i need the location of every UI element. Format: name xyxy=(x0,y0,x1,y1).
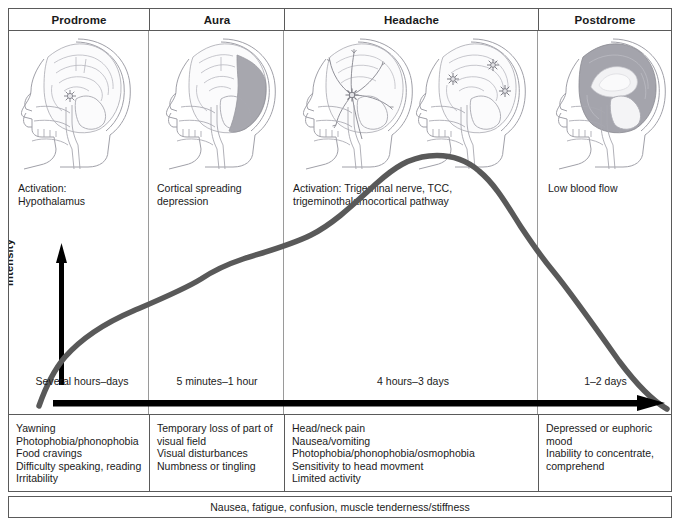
symptom-item: Inability to concentrate, xyxy=(546,447,665,460)
symptom-item: Depressed or euphoric xyxy=(546,422,665,435)
symptom-item: visual field xyxy=(157,435,278,448)
phase-header-label: Prodrome xyxy=(51,14,106,26)
common-symptoms-footer: Nausea, fatigue, confusion, muscle tende… xyxy=(8,496,672,518)
symptom-item: Yawning xyxy=(16,422,143,435)
symptom-item: Nausea/vomiting xyxy=(292,435,532,448)
starburst-marker xyxy=(447,73,459,85)
phase-header-headache: Headache xyxy=(284,9,538,30)
symptom-item: Head/neck pain xyxy=(292,422,532,435)
symptom-item: Irritability xyxy=(16,472,143,485)
symptom-item: Visual disturbances xyxy=(157,447,278,460)
footer-label: Nausea, fatigue, confusion, muscle tende… xyxy=(210,501,470,513)
symptoms-headache: Head/neck pain Nausea/vomiting Photophob… xyxy=(284,415,538,491)
starburst-marker xyxy=(346,89,359,102)
brain-illustration-row xyxy=(9,31,671,171)
head-brain-low-blood-flow-icon xyxy=(549,33,672,171)
phase-header-label: Aura xyxy=(204,14,231,26)
phase-header-label: Postdrome xyxy=(575,14,636,26)
symptoms-prodrome: Yawning Photophobia/phonophobia Food cra… xyxy=(9,415,149,491)
symptom-item: Numbness or tingling xyxy=(157,460,278,473)
phase-header-aura: Aura xyxy=(149,9,284,30)
activation-caption-headache: Activation: Trigeminal nerve, TCC, trige… xyxy=(293,182,543,208)
symptom-item: comprehend xyxy=(546,460,665,473)
phase-header-prodrome: Prodrome xyxy=(9,9,149,30)
starburst-marker xyxy=(499,85,511,97)
phase-header-row: Prodrome Aura Headache Postdrome xyxy=(8,8,672,31)
phase-header-postdrome: Postdrome xyxy=(538,9,671,30)
symptom-item: Limited activity xyxy=(292,472,532,485)
symptom-item: mood xyxy=(546,435,665,448)
symptoms-postdrome: Depressed or euphoric mood Inability to … xyxy=(538,415,671,491)
starburst-marker xyxy=(64,90,76,102)
starburst-marker xyxy=(487,59,499,71)
symptoms-aura: Temporary loss of part of visual field V… xyxy=(149,415,284,491)
symptom-item: Food cravings xyxy=(16,447,143,460)
activation-caption-prodrome: Activation: Hypothalamus xyxy=(18,182,146,208)
duration-postdrome: 1–2 days xyxy=(548,375,663,387)
intensity-axis-arrow xyxy=(56,243,67,385)
symptoms-row: Yawning Photophobia/phonophobia Food cra… xyxy=(8,414,672,492)
head-brain-hypothalamus-activation-icon xyxy=(14,33,146,171)
duration-aura: 5 minutes–1 hour xyxy=(157,375,277,387)
symptom-item: Sensitivity to head movment xyxy=(292,460,532,473)
migraine-phases-figure: Prodrome Aura Headache Postdrome xyxy=(8,8,672,522)
duration-prodrome: Several hours–days xyxy=(18,375,146,387)
figure-body: Activation: Hypothalamus Cortical spread… xyxy=(8,31,672,415)
activation-caption-aura: Cortical spreading depression xyxy=(157,182,285,208)
head-brain-cortical-spreading-depression-icon xyxy=(159,33,291,171)
head-brain-cortical-starbursts-icon xyxy=(409,33,541,171)
symptom-item: Difficulty speaking, reading xyxy=(16,460,143,473)
time-axis-arrow xyxy=(53,395,665,411)
symptom-item: Temporary loss of part of xyxy=(157,422,278,435)
symptom-item: Photophobia/phonophobia/osmophobia xyxy=(292,447,532,460)
duration-headache: 4 hours–3 days xyxy=(293,375,533,387)
symptom-item: Photophobia/phonophobia xyxy=(16,435,143,448)
intensity-axis-label: Intensity xyxy=(8,239,15,286)
activation-caption-postdrome: Low blood flow xyxy=(548,182,668,195)
phase-header-label: Headache xyxy=(384,14,439,26)
